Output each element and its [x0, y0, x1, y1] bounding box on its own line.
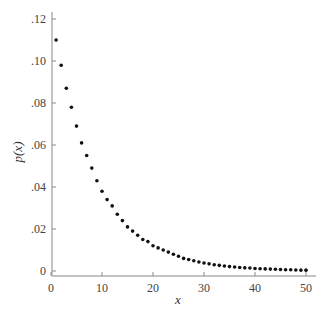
- data-point: [59, 63, 63, 67]
- data-point: [238, 266, 242, 270]
- data-point: [172, 252, 176, 256]
- data-point: [228, 265, 232, 269]
- data-point: [54, 38, 58, 42]
- data-point: [248, 266, 252, 270]
- data-point: [131, 229, 135, 233]
- data-point: [75, 124, 79, 128]
- data-point: [110, 204, 114, 208]
- x-tick-label: 10: [96, 281, 108, 295]
- y-tick-label: .12: [31, 12, 46, 26]
- data-point: [182, 257, 186, 261]
- data-point: [65, 87, 69, 91]
- x-tick-label: 50: [300, 281, 312, 295]
- data-point: [218, 264, 222, 268]
- data-point: [223, 264, 227, 268]
- data-point: [70, 105, 74, 109]
- data-point: [253, 267, 257, 271]
- data-point: [100, 189, 104, 193]
- data-point: [233, 265, 237, 269]
- data-point: [263, 267, 267, 271]
- x-tick-label: 30: [198, 281, 210, 295]
- data-point: [177, 254, 181, 258]
- data-point: [141, 238, 145, 242]
- data-point: [187, 258, 191, 262]
- y-axis-label: p(x): [10, 142, 25, 164]
- data-point: [289, 268, 293, 272]
- data-point: [90, 166, 94, 170]
- data-point: [197, 260, 201, 264]
- data-point: [167, 250, 171, 254]
- data-point: [212, 263, 216, 267]
- data-point: [121, 219, 125, 223]
- data-point: [161, 248, 165, 252]
- data-point: [258, 267, 262, 271]
- chart: 0.02.04.06.08.10.12 01020304050 x p(x): [0, 0, 327, 315]
- data-point: [294, 268, 298, 272]
- data-point: [304, 268, 308, 272]
- y-tick-label: 0: [40, 264, 46, 278]
- x-axis: 01020304050: [48, 272, 316, 295]
- data-point: [299, 268, 303, 272]
- data-point: [146, 240, 150, 244]
- y-tick-label: .10: [31, 54, 46, 68]
- x-axis-label: x: [174, 292, 181, 307]
- y-tick-label: .06: [31, 138, 46, 152]
- data-point: [269, 267, 273, 271]
- data-point: [156, 246, 160, 250]
- x-tick-label: 20: [147, 281, 159, 295]
- data-points: [54, 38, 308, 272]
- data-point: [105, 198, 109, 202]
- x-tick-label: 0: [48, 281, 54, 295]
- data-point: [207, 262, 211, 266]
- data-point: [136, 234, 140, 238]
- y-tick-label: .02: [31, 222, 46, 236]
- y-tick-label: .08: [31, 96, 46, 110]
- data-point: [279, 268, 283, 272]
- data-point: [151, 244, 155, 248]
- x-tick-label: 40: [249, 281, 261, 295]
- data-point: [274, 268, 278, 272]
- data-point: [85, 154, 89, 158]
- data-point: [80, 141, 84, 145]
- y-axis: 0.02.04.06.08.10.12: [31, 12, 56, 278]
- data-point: [95, 179, 99, 183]
- data-point: [202, 261, 206, 265]
- data-point: [192, 259, 196, 263]
- data-point: [243, 266, 247, 270]
- data-point: [126, 225, 130, 229]
- y-tick-label: .04: [31, 180, 46, 194]
- data-point: [284, 268, 288, 272]
- data-point: [116, 213, 120, 217]
